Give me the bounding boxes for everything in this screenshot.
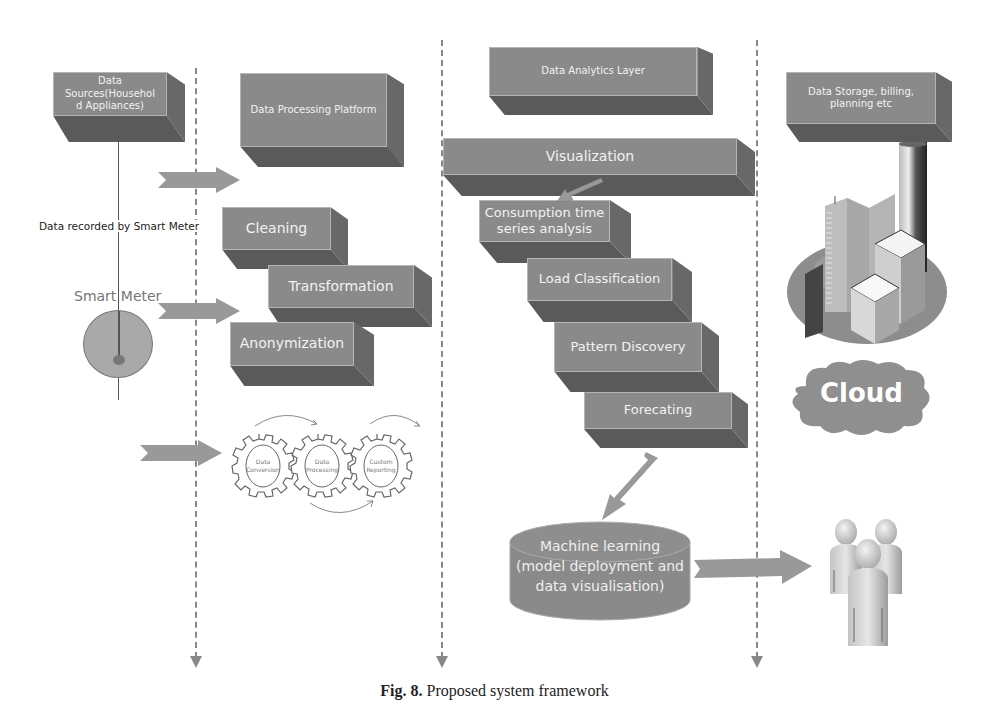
- step-forecasting: Forecating: [584, 392, 748, 448]
- smart-meter-label: Smart Meter: [74, 288, 161, 304]
- connector-label: Data recorded by Smart Meter: [38, 220, 200, 232]
- pattern-discovery-label: Pattern Discovery: [570, 339, 685, 355]
- gear-1-label-2: Conversion: [246, 466, 280, 473]
- separator-arrow-2: [436, 656, 448, 668]
- arrow-sources-to-processing-2: [158, 298, 240, 324]
- ml-line-2: (model deployment and: [508, 556, 692, 576]
- step-cleaning-label: Cleaning: [246, 220, 307, 238]
- smart-meter-icon: [83, 310, 153, 378]
- ml-line-3: data visualisation): [508, 576, 692, 596]
- gear-2-label-1: Data: [315, 458, 330, 465]
- data-sources-line-3: d Appliances): [76, 100, 144, 113]
- separator-arrow-1: [190, 656, 202, 668]
- data-analytics-layer-block: Data Analytics Layer: [489, 47, 713, 115]
- cloud-label: Cloud: [820, 378, 903, 408]
- gear-2-label-2: Processing: [306, 466, 338, 474]
- step-anonymization-label: Anonymization: [240, 335, 344, 353]
- consumption-line-2: series analysis: [497, 221, 592, 237]
- step-pattern-discovery: Pattern Discovery: [554, 322, 719, 392]
- city-buildings-icon: [785, 142, 955, 352]
- data-storage-block: Data Storage, billing, planning etc: [786, 72, 952, 142]
- figure-caption-label: Fig. 8.: [380, 682, 422, 699]
- arrow-ml-to-users: [694, 550, 812, 586]
- analytics-header-label: Data Analytics Layer: [541, 65, 645, 78]
- step-anonymization: Anonymization: [230, 322, 374, 386]
- visualization-label: Visualization: [546, 148, 634, 166]
- figure-caption: Fig. 8. Proposed system framework: [0, 682, 989, 700]
- figure-caption-text: Proposed system framework: [427, 682, 609, 699]
- data-sources-line-2: Sources(Househol: [65, 88, 155, 101]
- forecasting-label: Forecating: [624, 402, 692, 418]
- processing-header-label: Data Processing Platform: [251, 104, 377, 117]
- step-load-classification: Load Classification: [527, 258, 692, 322]
- gear-3-label-1: Custom: [370, 458, 393, 465]
- storage-line-1: Data Storage, billing,: [808, 86, 914, 99]
- arrow-visualization-to-consumption: [555, 176, 605, 206]
- ml-line-1: Machine learning: [508, 536, 692, 556]
- separator-line-1: [195, 68, 197, 658]
- storage-line-2: planning etc: [830, 98, 892, 111]
- data-sources-line-1: Data: [98, 75, 122, 88]
- step-transformation: Transformation: [268, 265, 432, 327]
- step-consumption-analysis: Consumption time series analysis: [479, 200, 631, 263]
- users-group-icon: [828, 518, 918, 648]
- load-classification-label: Load Classification: [539, 271, 660, 287]
- data-processing-platform-block: Data Processing Platform: [240, 73, 404, 167]
- gear-3-label-2: Reporting: [366, 466, 395, 474]
- consumption-line-1: Consumption time: [485, 205, 605, 221]
- gears-diagram: Data Conversion Data Processing Custom R…: [225, 408, 425, 518]
- arrow-sources-to-processing-1: [158, 167, 240, 193]
- data-sources-block: Data Sources(Househol d Appliances): [53, 72, 185, 142]
- separator-line-2: [441, 40, 443, 658]
- step-transformation-label: Transformation: [288, 278, 393, 296]
- arrow-to-gears: [140, 440, 222, 466]
- step-cleaning: Cleaning: [222, 207, 348, 269]
- gear-1-label-1: Data: [256, 458, 271, 465]
- machine-learning-label: Machine learning (model deployment and d…: [508, 536, 692, 596]
- separator-arrow-3: [751, 656, 763, 668]
- arrow-forecasting-to-ml: [600, 450, 660, 522]
